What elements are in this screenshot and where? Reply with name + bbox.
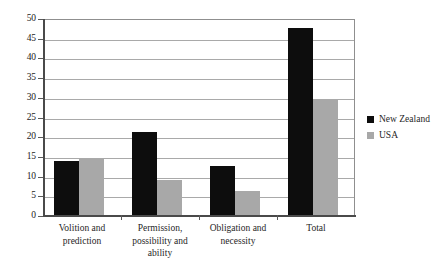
x-axis-tick-mark — [121, 215, 122, 220]
y-axis-tick-label-wrap: 25 — [8, 113, 36, 123]
x-axis-category-label-line: necessity — [191, 235, 285, 248]
bar-usa — [313, 100, 338, 215]
y-axis-tick-label: 20 — [10, 132, 36, 142]
legend-label-usa: USA — [379, 130, 398, 140]
y-axis-tick-label-wrap: 5 — [8, 191, 36, 201]
bar-new-zealand — [54, 161, 79, 215]
y-axis-tick-label: 25 — [10, 113, 36, 123]
y-axis-tick-label-wrap: 10 — [8, 172, 36, 182]
y-axis-tick-label-wrap: 20 — [8, 132, 36, 142]
y-axis-tick-mark — [38, 58, 43, 59]
y-axis-tick-label-wrap: 45 — [8, 34, 36, 44]
bar-usa — [235, 191, 260, 215]
y-axis-tick-label: 35 — [10, 73, 36, 83]
y-axis-tick-mark — [38, 157, 43, 158]
plot-area — [43, 19, 355, 216]
bar-new-zealand — [132, 132, 157, 215]
y-axis-tick-label: 0 — [10, 211, 36, 221]
x-axis-tick-mark — [277, 215, 278, 220]
y-axis-tick-label: 40 — [10, 53, 36, 63]
chart-legend: New Zealand USA — [367, 112, 443, 144]
y-axis-tick-label-wrap: 15 — [8, 152, 36, 162]
y-axis-tick-mark — [38, 177, 43, 178]
x-axis-category-label: Total — [269, 222, 363, 235]
legend-item-usa: USA — [367, 128, 443, 142]
y-axis-line — [43, 19, 45, 217]
y-axis-tick-mark — [38, 196, 43, 197]
legend-item-new-zealand: New Zealand — [367, 112, 443, 126]
x-axis-category-label-line: Total — [269, 222, 363, 235]
bar-chart-figure: 05101520253035404550Volition andpredicti… — [0, 0, 444, 269]
y-axis-tick-label: 10 — [10, 172, 36, 182]
y-axis-tick-label-wrap: 40 — [8, 53, 36, 63]
bar-new-zealand — [288, 28, 313, 215]
legend-swatch-icon-new-zealand — [367, 116, 374, 123]
y-axis-tick-mark — [38, 39, 43, 40]
y-axis-tick-label-wrap: 30 — [8, 93, 36, 103]
y-axis-tick-label: 45 — [10, 34, 36, 44]
legend-swatch-icon-usa — [367, 132, 374, 139]
y-axis-tick-label-wrap: 35 — [8, 73, 36, 83]
y-axis-tick-mark — [38, 78, 43, 79]
legend-label-new-zealand: New Zealand — [379, 114, 430, 124]
bar-usa — [79, 159, 104, 215]
y-axis-tick-label-wrap: 0 — [8, 211, 36, 221]
x-axis-category-label-line: ability — [113, 247, 207, 260]
bar-new-zealand — [210, 166, 235, 215]
y-axis-tick-mark — [38, 118, 43, 119]
y-axis-tick-label: 30 — [10, 93, 36, 103]
y-axis-tick-label: 5 — [10, 191, 36, 201]
y-axis-tick-label: 50 — [10, 14, 36, 24]
y-axis-tick-label-wrap: 50 — [8, 14, 36, 24]
bar-usa — [157, 180, 182, 215]
y-axis-tick-mark — [38, 216, 43, 217]
y-axis-tick-mark — [38, 19, 43, 20]
y-axis-tick-mark — [38, 98, 43, 99]
x-axis-tick-mark — [199, 215, 200, 220]
y-axis-tick-mark — [38, 137, 43, 138]
y-axis-tick-label: 15 — [10, 152, 36, 162]
